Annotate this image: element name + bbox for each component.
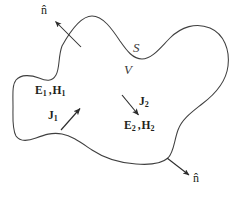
current-j2-symbol: J <box>139 95 145 107</box>
field-h2-symbol: H <box>142 119 151 131</box>
current-j1-subscript: 1 <box>54 114 58 123</box>
fields-label-region-1: E1,H1 <box>35 85 66 97</box>
field-e1-subscript: 1 <box>43 89 47 98</box>
field-h1-symbol: H <box>53 84 62 96</box>
field-e1-symbol: E <box>35 84 43 96</box>
volume-label: V <box>124 63 132 76</box>
electromagnetics-volume-diagram: n̂ S V E1,H1 J1 J2 E2,H2 n̂ <box>0 0 238 199</box>
surface-label: S <box>133 41 140 54</box>
field-h1-subscript: 1 <box>62 89 66 98</box>
current-label-j2: J2 <box>139 96 149 108</box>
normal-vector-label-top: n̂ <box>41 4 47 16</box>
field-e2-subscript: 2 <box>132 124 136 133</box>
diagram-canvas <box>0 0 238 199</box>
current-arrow-j1 <box>61 109 80 131</box>
current-j1-symbol: J <box>48 109 54 121</box>
current-j2-subscript: 2 <box>145 100 149 109</box>
normal-arrow-bottom <box>167 158 189 175</box>
field-h2-subscript: 2 <box>151 124 155 133</box>
normal-arrow-top <box>56 22 82 48</box>
normal-vector-label-bottom: n̂ <box>193 172 199 184</box>
current-label-j1: J1 <box>48 110 58 122</box>
current-arrow-j2 <box>122 95 139 115</box>
fields-label-region-2: E2,H2 <box>124 120 155 132</box>
field-e2-symbol: E <box>124 119 132 131</box>
